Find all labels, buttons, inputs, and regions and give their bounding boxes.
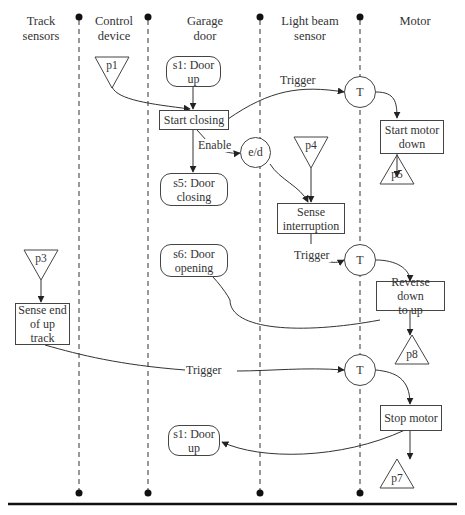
state-s6-door-opening: s6: Door opening — [160, 244, 228, 277]
lane-label-line1: Motor — [380, 14, 450, 29]
place-p4: p4 — [294, 139, 328, 151]
action-label-line1: Start motor — [385, 123, 439, 137]
state-label-line2: closing — [177, 190, 212, 204]
state-label-line2: up — [188, 441, 200, 455]
action-stop-motor: Stop motor — [380, 405, 442, 431]
action-reverse-down-to-up: Reverse down to up — [376, 281, 445, 311]
diagram-lines — [0, 0, 465, 515]
lane-header-light-beam-sensor: Light beam sensor — [270, 14, 350, 44]
lane-label-line2: sensor — [270, 29, 350, 44]
lane-label-line2: device — [84, 29, 144, 44]
edge-label-trigger-3: Trigger — [185, 364, 223, 377]
transition-t3: T — [344, 354, 376, 386]
lane-label-line2: sensors — [10, 29, 72, 44]
place-p1: p1 — [95, 59, 129, 71]
place-p3: p3 — [24, 252, 58, 264]
state-label-line2: opening — [175, 261, 214, 275]
lane-label-line2: door — [170, 29, 240, 44]
action-label-line3: track — [31, 331, 55, 345]
place-p5: p5 — [380, 168, 414, 180]
place-p7: p7 — [380, 472, 414, 484]
state-label-line1: s5: Door — [173, 176, 215, 190]
action-label-line2: to up — [398, 303, 422, 317]
state-label-line2: up — [188, 72, 200, 86]
action-label-line1: Sense end — [18, 303, 66, 317]
lane-header-motor: Motor — [380, 14, 450, 29]
edge-label-enable: Enable — [197, 139, 232, 152]
lane-header-track-sensors: Track sensors — [10, 14, 72, 44]
enable-disable-node: e/d — [240, 137, 271, 168]
lane-label-line1: Light beam — [270, 14, 350, 29]
edge-label-trigger-2: Trigger — [293, 249, 331, 262]
state-s5-door-closing: s5: Door closing — [160, 173, 228, 206]
action-start-closing: Start closing — [159, 110, 229, 130]
lane-label-line1: Track — [10, 14, 72, 29]
transition-t2: T — [344, 244, 376, 276]
transition-t1: T — [344, 76, 376, 108]
action-start-motor-down: Start motor down — [380, 120, 444, 154]
state-s1-door-up: s1: Door up — [166, 56, 221, 87]
lane-label-line1: Garage — [170, 14, 240, 29]
action-sense-end-of-up-track: Sense end of up track — [15, 303, 70, 345]
swimlane-diagram: Track sensors Control device Garage door… — [0, 0, 465, 515]
action-sense-interruption: Sense interruption — [277, 203, 345, 234]
action-label-line2: interruption — [283, 219, 340, 233]
action-label-line1: Sense — [297, 205, 325, 219]
lane-header-control-device: Control device — [84, 14, 144, 44]
state-label-line1: s1: Door — [173, 427, 215, 441]
state-s1-door-up-bottom: s1: Door up — [168, 425, 220, 456]
lane-header-garage-door: Garage door — [170, 14, 240, 44]
state-label-line1: s1: Door — [173, 58, 215, 72]
lane-label-line1: Control — [84, 14, 144, 29]
state-label-line1: s6: Door — [173, 247, 215, 261]
action-label-line1: Reverse down — [377, 275, 444, 303]
action-label-line2: down — [399, 137, 426, 151]
place-p8: p8 — [395, 348, 429, 360]
action-label-line2: of up — [30, 317, 55, 331]
edge-label-trigger-1: Trigger — [279, 74, 317, 87]
